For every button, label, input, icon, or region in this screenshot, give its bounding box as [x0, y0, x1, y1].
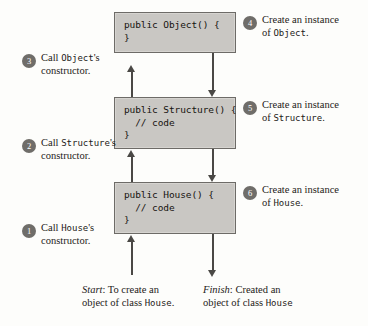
arrow-line-start-to-house — [131, 241, 133, 275]
code-box-structure: public Structure() { // code } — [114, 97, 236, 149]
callout-step-3: 3 Call Object's constructor. — [22, 52, 100, 77]
caption-start-line2-pre: object of class — [82, 297, 145, 308]
arrow-head-structure-to-house — [208, 175, 216, 182]
callout-2-line1-post: 's — [110, 137, 116, 148]
step-badge-1: 1 — [22, 224, 36, 238]
step-badge-6: 6 — [243, 186, 257, 200]
callout-5-line2-pre: of — [262, 112, 273, 123]
caption-start-line1-post: : To create an — [102, 284, 159, 295]
step-badge-4: 4 — [243, 16, 257, 30]
callout-3-line2: constructor. — [41, 65, 90, 76]
callout-step-5: 5 Create an instance of Structure. — [243, 99, 339, 124]
callout-3-class-name: Object — [61, 53, 94, 63]
arrow-line-structure-to-object — [131, 71, 133, 97]
arrow-line-house-to-structure — [131, 156, 133, 182]
callout-4-line2-pre: of — [262, 27, 273, 38]
arrow-head-start-to-house — [127, 235, 135, 242]
arrow-line-house-to-finish — [212, 234, 214, 271]
caption-finish-label: Finish — [203, 284, 230, 295]
callout-4-line2-post: . — [306, 27, 309, 38]
callout-1-class-name: House — [61, 223, 88, 233]
callout-6-line2-post: . — [300, 197, 303, 208]
code-box-house: public House() { // code } — [114, 182, 236, 234]
step-badge-3: 3 — [22, 54, 36, 68]
arrow-head-structure-to-object — [127, 65, 135, 72]
callout-2-line1-pre: Call — [41, 137, 61, 148]
code-text-object: public Object() { } — [124, 19, 220, 44]
callout-6-class-name: House — [273, 198, 300, 208]
callout-text-3: Call Object's constructor. — [41, 52, 100, 77]
callout-5-line2-post: . — [322, 112, 325, 123]
code-box-object: public Object() { } — [114, 12, 236, 53]
caption-finish-line1-post: : Created an — [230, 284, 281, 295]
callout-1-line2: constructor. — [41, 235, 90, 246]
arrow-line-object-to-structure — [212, 53, 214, 91]
callout-4-class-name: Object — [273, 28, 306, 38]
callout-3-line1-post: 's — [94, 52, 100, 63]
callout-text-5: Create an instance of Structure. — [262, 99, 339, 124]
arrow-line-structure-to-house — [212, 149, 214, 176]
caption-start-label: Start — [82, 284, 102, 295]
callout-1-line1-pre: Call — [41, 222, 61, 233]
arrow-head-house-to-finish — [208, 270, 216, 277]
callout-step-6: 6 Create an instance of House. — [243, 184, 339, 209]
callout-4-line1: Create an instance — [262, 14, 339, 25]
step-badge-2: 2 — [22, 139, 36, 153]
constructor-chaining-diagram: public Object() { } public Structure() {… — [0, 0, 368, 326]
callout-2-class-name: Structure — [61, 138, 110, 148]
caption-finish-class-name: House — [266, 298, 293, 308]
callout-5-line1: Create an instance — [262, 99, 339, 110]
caption-start-line2-post: . — [172, 297, 175, 308]
caption-finish: Finish: Created an object of class House — [203, 283, 293, 310]
caption-start-class-name: House — [145, 298, 172, 308]
code-text-structure: public Structure() { // code } — [124, 104, 236, 142]
callout-2-line2: constructor. — [41, 150, 90, 161]
callout-5-class-name: Structure — [273, 113, 322, 123]
callout-step-4: 4 Create an instance of Object. — [243, 14, 339, 39]
callout-text-6: Create an instance of House. — [262, 184, 339, 209]
callout-text-1: Call House's constructor. — [41, 222, 94, 247]
caption-start: Start: To create an object of class Hous… — [82, 283, 174, 310]
callout-1-line1-post: 's — [88, 222, 94, 233]
callout-6-line1: Create an instance — [262, 184, 339, 195]
callout-text-2: Call Structure's constructor. — [41, 137, 116, 162]
arrow-head-house-to-structure — [127, 150, 135, 157]
callout-step-1: 1 Call House's constructor. — [22, 222, 94, 247]
step-badge-5: 5 — [243, 101, 257, 115]
callout-3-line1-pre: Call — [41, 52, 61, 63]
callout-step-2: 2 Call Structure's constructor. — [22, 137, 116, 162]
arrow-head-object-to-structure — [208, 90, 216, 97]
callout-6-line2-pre: of — [262, 197, 273, 208]
caption-finish-line2-pre: object of class — [203, 297, 266, 308]
code-text-house: public House() { // code } — [124, 189, 214, 227]
callout-text-4: Create an instance of Object. — [262, 14, 339, 39]
